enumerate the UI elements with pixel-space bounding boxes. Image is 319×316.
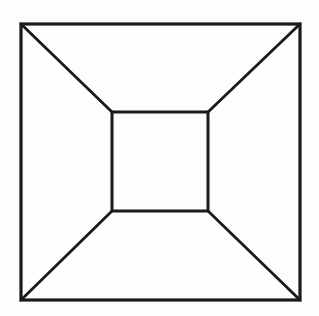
diagonal-bottom-right <box>208 211 300 300</box>
diagonal-top-left <box>21 24 112 112</box>
inner-square <box>112 112 208 211</box>
diagram-canvas <box>0 0 319 316</box>
diagonal-bottom-left <box>21 211 112 300</box>
diagonal-top-right <box>208 24 300 112</box>
frustum-diagram <box>0 0 319 316</box>
